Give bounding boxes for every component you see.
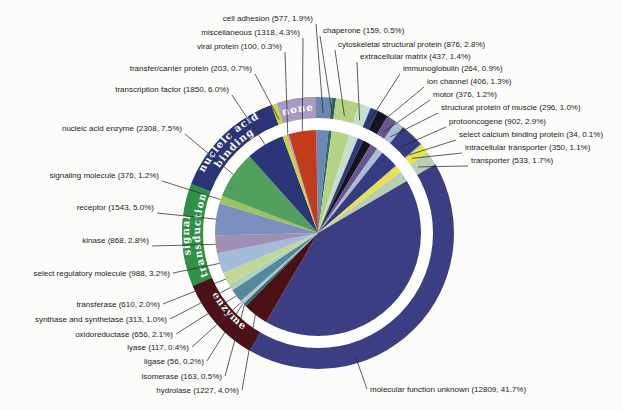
- slice-label-transcription_factor: transcription factor (1850, 6.0%): [115, 85, 229, 94]
- slice-label-receptor: receptor (1543, 5.0%): [77, 203, 155, 212]
- slice-label-cell_adhesion: cell adhesion (577, 1.9%): [223, 14, 314, 23]
- leader-line-molecular_function_unknown: [356, 358, 367, 389]
- pie-chart-svg: nucleic acidbindingnonesignaltransductio…: [0, 0, 621, 410]
- slice-label-nucleic_acid_enzyme: nucleic acid enzyme (2308, 7.5%): [62, 124, 182, 133]
- group-label-signal_transduction: signal: [180, 214, 193, 256]
- slice-label-miscellaneous: miscellaneous (1318, 4.3%): [201, 28, 300, 37]
- slice-label-protooncogene: protooncogene (902, 2.9%): [449, 117, 546, 126]
- slice-label-transferase: transferase (610, 2.0%): [76, 300, 160, 309]
- slice-label-lyase: lyase (117, 0.4%): [127, 343, 189, 352]
- slice-label-ion_channel: ion channel (406, 1.3%): [427, 77, 512, 86]
- slice-label-signaling_molecule: signaling molecule (376, 1.2%): [50, 171, 160, 180]
- slice-label-viral_protein: viral protein (100, 0.3%): [197, 42, 282, 51]
- slice-label-hydrolase: hydrolase (1227, 4.0%): [156, 386, 239, 395]
- slice-label-synthase_and_synthetase: synthase and synthetase (313, 1.0%): [35, 315, 167, 324]
- slice-label-transporter: transporter (533, 1.7%): [471, 156, 554, 165]
- slice-label-cytoskeletal_structural_protein: cytoskeletal structural protein (876, 2.…: [338, 40, 486, 49]
- leader-line-motor: [383, 100, 430, 132]
- slice-label-chaperone: chaperone (159, 0.5%): [323, 26, 405, 35]
- slice-label-ligase: ligase (56, 0.2%): [144, 357, 204, 366]
- slice-label-intracellular_transporter: intracellular transporter (350, 1.1%): [465, 143, 591, 152]
- slice-label-kinase: kinase (868, 2.8%): [82, 236, 149, 245]
- pie-chart-figure: nucleic acidbindingnonesignaltransductio…: [0, 0, 621, 410]
- slice-label-extracellular_matrix: extracellular matrix (437, 1.4%): [360, 52, 471, 61]
- slice-label-transfer_carrier_protein: transfer/carrier protein (203, 0.7%): [130, 64, 253, 73]
- slice-label-oxidoreductase: oxidoreductase (656, 2.1%): [75, 330, 173, 339]
- slice-label-motor: motor (376, 1.2%): [433, 90, 497, 99]
- slice-label-structural_protein_of_muscle: structural protein of muscle (296, 1.0%): [441, 103, 581, 112]
- slice-label-select_regulatory_molecule: select regulatory molecule (988, 3.2%): [33, 269, 170, 278]
- slice-label-molecular_function_unknown: molecular function unknown (12809, 41.7%…: [370, 385, 526, 394]
- slice-label-isomerase: isomerase (163, 0.5%): [142, 372, 223, 381]
- slice-label-immunoglobulin: immunoglobulin (264, 0.9%): [403, 64, 503, 73]
- slice-label-select_calcium_binding_protein: select calcium binding protein (34, 0.1%…: [459, 130, 603, 139]
